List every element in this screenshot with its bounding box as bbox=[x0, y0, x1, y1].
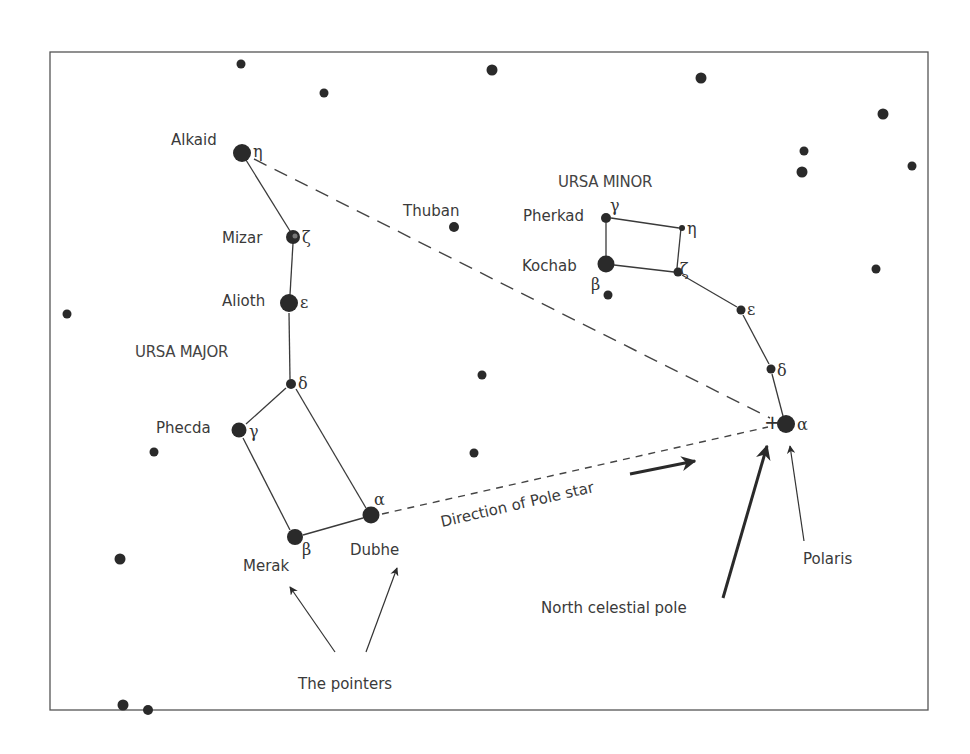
star bbox=[320, 89, 329, 98]
star bbox=[797, 167, 808, 178]
star bbox=[470, 449, 479, 458]
star-alioth bbox=[280, 294, 298, 312]
star bbox=[63, 310, 72, 319]
star bbox=[143, 705, 153, 715]
star bbox=[878, 109, 889, 120]
greek-mizar: ζ bbox=[302, 228, 311, 247]
star-kochab bbox=[598, 256, 615, 273]
greek-polaris: α bbox=[797, 415, 808, 434]
greek-phecda: γ bbox=[249, 422, 259, 441]
star bbox=[237, 60, 246, 69]
star-umi-delta bbox=[767, 365, 776, 374]
star-thuban bbox=[449, 222, 459, 232]
star-dubhe bbox=[363, 507, 380, 524]
star bbox=[908, 162, 917, 171]
greek-umi-delta: δ bbox=[777, 361, 787, 380]
label-alioth: Alioth bbox=[222, 292, 265, 310]
label-polaris: Polaris bbox=[803, 550, 852, 568]
greek-kochab: β bbox=[591, 275, 600, 294]
star bbox=[478, 371, 487, 380]
greek-pherkad: γ bbox=[610, 196, 620, 215]
chart-frame bbox=[50, 52, 928, 710]
greek-alkaid: η bbox=[253, 142, 263, 161]
greek-umi-eta: η bbox=[687, 219, 697, 238]
star-alkaid bbox=[233, 144, 251, 162]
label-north-celestial-pole: North celestial pole bbox=[541, 599, 687, 617]
star bbox=[150, 448, 159, 457]
star-umi-eta bbox=[679, 225, 685, 231]
label-mizar: Mizar bbox=[222, 229, 263, 247]
greek-megrez: δ bbox=[298, 374, 308, 393]
star bbox=[487, 65, 498, 76]
greek-alioth: ε bbox=[300, 293, 308, 312]
label-pherkad: Pherkad bbox=[523, 207, 584, 225]
greek-umi-zeta: ζ bbox=[680, 260, 689, 279]
label-alkaid: Alkaid bbox=[171, 131, 217, 149]
star bbox=[115, 554, 126, 565]
star-chart: + Alkaid Mizar Alioth URSA MAJOR Phecda … bbox=[0, 0, 970, 754]
greek-dubhe: α bbox=[374, 490, 385, 509]
label-thuban: Thuban bbox=[402, 202, 459, 220]
star-megrez bbox=[286, 379, 296, 389]
label-ursa-major: URSA MAJOR bbox=[135, 343, 228, 361]
greek-umi-epsilon: ε bbox=[747, 300, 755, 319]
star-alcor bbox=[293, 234, 298, 239]
label-phecda: Phecda bbox=[156, 419, 211, 437]
star bbox=[800, 147, 809, 156]
label-kochab: Kochab bbox=[522, 257, 577, 275]
north-celestial-pole-marker: + bbox=[764, 410, 781, 434]
star-phecda bbox=[232, 423, 247, 438]
label-merak: Merak bbox=[243, 557, 290, 575]
label-dubhe: Dubhe bbox=[350, 541, 399, 559]
label-the-pointers: The pointers bbox=[297, 675, 392, 693]
greek-merak: β bbox=[302, 540, 311, 559]
star bbox=[118, 700, 129, 711]
star bbox=[872, 265, 881, 274]
star bbox=[604, 291, 613, 300]
star-merak bbox=[287, 529, 303, 545]
star-umi-epsilon bbox=[737, 306, 746, 315]
star bbox=[696, 73, 707, 84]
label-ursa-minor: URSA MINOR bbox=[558, 173, 652, 191]
